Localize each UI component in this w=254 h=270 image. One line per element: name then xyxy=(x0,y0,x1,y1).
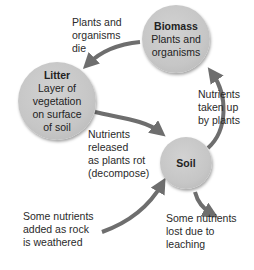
label-nutrients-taken: Nutrients taken up by plants xyxy=(198,88,240,127)
soil-node: Soil xyxy=(160,137,212,189)
label-nutrients-lost: Some nutrients lost due to leaching xyxy=(166,212,237,251)
litter-desc-line: vegetation xyxy=(33,95,81,108)
litter-desc-line: on surface xyxy=(32,108,81,121)
soil-title: Soil xyxy=(176,157,195,170)
biomass-title: Biomass xyxy=(154,20,198,33)
litter-title: Litter xyxy=(44,69,70,82)
label-nutrients-released: Nutrients released as plants rot (decomp… xyxy=(88,128,149,180)
biomass-desc-line: organisms xyxy=(152,46,200,59)
arrow-rock-to-soil xyxy=(102,184,162,232)
litter-desc-line: Layer of xyxy=(38,82,76,95)
biomass-desc-line: Plants and xyxy=(151,33,201,46)
label-plants-die: Plants and organisms die xyxy=(72,16,122,55)
biomass-node: Biomass Plants and organisms xyxy=(142,5,210,73)
arrow-soil-to-leaching xyxy=(195,192,212,214)
label-nutrients-added: Some nutrients added as rock is weathere… xyxy=(23,210,94,249)
litter-desc-line: of soil xyxy=(43,121,70,134)
litter-node: Litter Layer of vegetation on surface of… xyxy=(18,62,96,140)
